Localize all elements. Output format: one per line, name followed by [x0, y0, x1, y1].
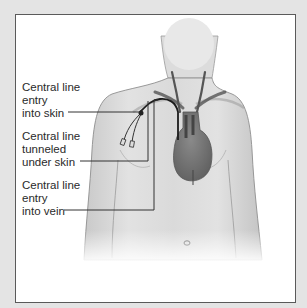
neck	[161, 18, 218, 78]
label-line: Central line	[22, 81, 80, 94]
label-line: entry	[22, 94, 80, 107]
skin-entry-point	[139, 111, 144, 116]
label-line: under skin	[22, 156, 80, 169]
label-line: into skin	[22, 107, 80, 120]
label-line: Central line	[22, 130, 80, 143]
label-line: tunneled	[22, 143, 80, 156]
label-tunneled-under-skin: Central line tunneled under skin	[22, 130, 80, 169]
label-line: entry	[22, 192, 80, 205]
label-line: into vein	[22, 205, 80, 218]
label-line: Central line	[22, 179, 80, 192]
label-entry-into-skin: Central line entry into skin	[22, 81, 80, 120]
label-entry-into-vein: Central line entry into vein	[22, 179, 80, 218]
